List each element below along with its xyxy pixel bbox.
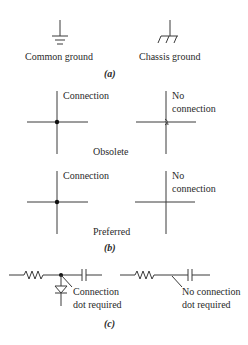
preferred-no-connection-crossing-icon xyxy=(135,171,195,234)
caption-a: (a) xyxy=(104,68,116,80)
preferred-no-connection-label-line2: connection xyxy=(172,183,216,194)
caption-b: (b) xyxy=(104,242,116,254)
preferred-connection-label: Connection xyxy=(63,170,109,181)
no-connection-dot-required-label-line1: No connection xyxy=(182,286,241,297)
chassis-ground-symbol-icon xyxy=(158,20,178,43)
obsolete-style-label: Obsolete xyxy=(93,146,129,157)
obsolete-no-connection-crossover-icon xyxy=(136,91,196,154)
obsolete-connection-label: Connection xyxy=(63,90,109,101)
chassis-ground-label: Chassis ground xyxy=(139,51,200,62)
preferred-no-connection-label-line1: No xyxy=(172,170,184,181)
connection-dot-required-label-line2: dot required xyxy=(73,299,122,310)
common-ground-symbol-icon xyxy=(52,20,68,44)
no-connection-dot-required-label-line2: dot required xyxy=(182,299,231,310)
obsolete-no-connection-label-line2: connection xyxy=(172,103,216,114)
schematic-symbols-diagram: Common ground Chassis ground (a) Connect… xyxy=(0,0,248,345)
connection-dot-required-label-line1: Connection xyxy=(73,286,119,297)
common-ground-label: Common ground xyxy=(25,51,93,62)
circuit-without-junction-dot-icon xyxy=(120,269,210,287)
obsolete-no-connection-label-line1: No xyxy=(172,90,184,101)
caption-c: (c) xyxy=(104,318,115,330)
preferred-style-label: Preferred xyxy=(93,226,130,237)
